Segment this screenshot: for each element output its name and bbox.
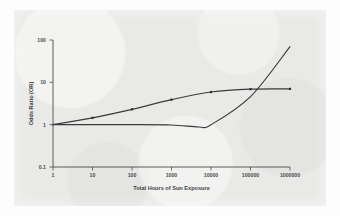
y-axis-ticks: [50, 40, 54, 167]
figure-canvas: 100 10 1 0.1 1 10 100 1000 10000 100000 …: [0, 0, 340, 216]
x-axis-ticks: [53, 167, 290, 171]
series-line-0: [53, 89, 290, 125]
x-tick-label: 1000: [166, 172, 178, 178]
data-point-marker: [249, 88, 251, 90]
y-tick-label: 1: [43, 122, 46, 128]
data-point-marker: [210, 91, 212, 93]
x-tick-label: 10: [90, 172, 96, 178]
data-point-marker: [131, 108, 133, 110]
x-axis-title: Total Hours of Sun Exposure: [133, 185, 210, 191]
x-tick-label: 100: [128, 172, 137, 178]
data-point-marker: [170, 99, 172, 101]
y-tick-labels: 100 10 1 0.1: [37, 37, 46, 170]
axes-frame: [53, 40, 290, 167]
y-tick-label: 0.1: [39, 164, 46, 170]
series-line-1: [53, 47, 290, 128]
y-tick-label: 10: [40, 79, 46, 85]
x-tick-label: 1000000: [280, 172, 300, 178]
data-series-layer: [53, 47, 291, 128]
x-tick-label: 1: [52, 172, 55, 178]
y-tick-label: 100: [37, 37, 46, 43]
log-log-chart: 100 10 1 0.1 1 10 100 1000 10000 100000 …: [0, 0, 340, 216]
y-axis-title: Odds Ratio (OR): [28, 82, 34, 126]
x-tick-labels: 1 10 100 1000 10000 100000 1000000: [52, 172, 301, 178]
x-tick-label: 10000: [204, 172, 219, 178]
data-point-marker: [91, 117, 93, 119]
data-point-marker: [289, 88, 291, 90]
x-tick-label: 100000: [242, 172, 259, 178]
